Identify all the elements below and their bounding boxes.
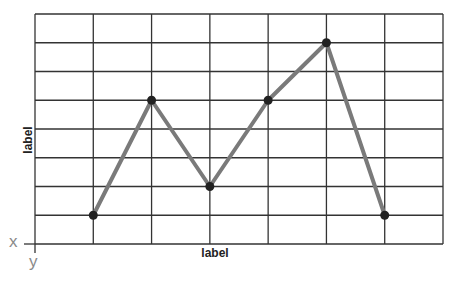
x-axis-label: label: [190, 246, 240, 260]
data-point-marker: [380, 211, 389, 220]
data-point-marker: [264, 96, 273, 105]
data-point-marker: [147, 96, 156, 105]
data-point-marker: [322, 38, 331, 47]
x-axis-letter: x: [9, 232, 18, 252]
data-point-marker: [89, 211, 98, 220]
data-point-marker: [205, 182, 214, 191]
y-axis-letter: y: [29, 252, 38, 272]
y-axis-label: label: [21, 125, 35, 155]
line-chart: [0, 0, 452, 281]
